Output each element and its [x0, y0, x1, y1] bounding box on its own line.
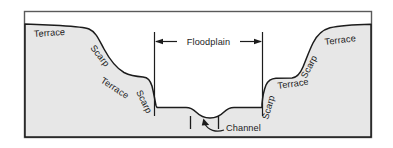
diagram-root: Terrace Scarp Terrace Scarp Scarp Terrac…: [0, 0, 393, 148]
cross-section-diagram: Terrace Scarp Terrace Scarp Scarp Terrac…: [0, 0, 393, 148]
label-channel: Channel: [226, 123, 261, 133]
label-floodplain: Floodplain: [187, 37, 230, 47]
